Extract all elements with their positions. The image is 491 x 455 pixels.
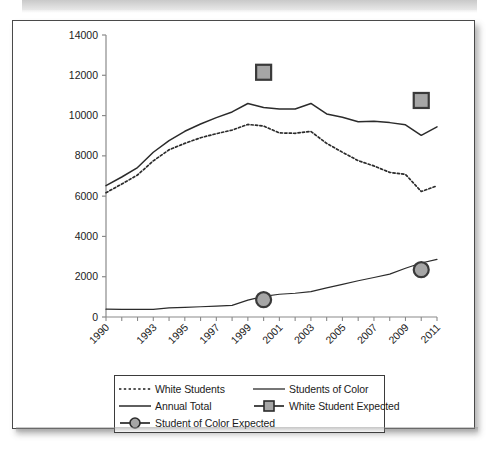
y-tick-label: 12000 (69, 69, 98, 81)
y-tick-label: 0 (92, 311, 98, 323)
legend-row: Annual Total White Student Expected (115, 398, 384, 414)
y-tick-label: 14000 (69, 29, 98, 41)
marker-white-student-expected (414, 93, 429, 108)
marker-white-student-expected (256, 65, 271, 80)
x-tick-label: 1993 (134, 321, 159, 346)
legend-item-students-of-color: Students of Color (249, 382, 383, 396)
scan-artifact-band-edge (22, 10, 477, 13)
y-tick-label: 8000 (75, 149, 99, 161)
y-tick-label: 4000 (75, 230, 99, 242)
chart-area: 0200040006000800010000120001400019901993… (13, 21, 474, 428)
figure-card: 0200040006000800010000120001400019901993… (12, 20, 475, 429)
x-tick-label: 2001 (260, 321, 285, 346)
legend-item-white-students: White Students (115, 382, 249, 396)
square-marker-line-icon (249, 399, 289, 413)
scan-artifact-band (22, 0, 477, 10)
legend-row: White Students Students of Color (115, 381, 384, 397)
x-tick-label: 2011 (418, 321, 443, 346)
series-line-white-students (106, 124, 437, 192)
y-tick-label: 10000 (69, 109, 98, 121)
marker-student-of-color-expected (256, 292, 271, 307)
x-tick-label: 1995 (165, 321, 190, 346)
series-line-annual-total (106, 103, 437, 185)
legend-label: Annual Total (155, 400, 211, 412)
legend-item-annual-total: Annual Total (115, 399, 249, 413)
legend-label: White Student Expected (289, 400, 399, 412)
solid-line-icon (115, 399, 155, 413)
chart-page: 0200040006000800010000120001400019901993… (0, 0, 491, 455)
legend-label: Students of Color (289, 383, 368, 395)
x-tick-label: 1999 (228, 321, 253, 346)
marker-student-of-color-expected (414, 262, 429, 277)
x-tick-label: 2005 (323, 321, 348, 346)
legend-item-white-student-expected: White Student Expected (249, 399, 383, 413)
chart-legend: White Students Students of Color (114, 375, 385, 433)
y-tick-label: 2000 (75, 270, 99, 282)
y-tick-label: 6000 (75, 190, 99, 202)
x-tick-label: 1997 (197, 321, 222, 346)
line-chart-svg: 0200040006000800010000120001400019901993… (13, 21, 474, 428)
x-tick-label: 2007 (354, 321, 379, 346)
card-shadow (16, 427, 478, 433)
dotted-line-icon (115, 382, 155, 396)
x-tick-label: 2003 (291, 321, 316, 346)
solid-line-icon (249, 382, 289, 396)
x-tick-label: 2009 (386, 321, 411, 346)
x-tick-label: 1990 (86, 321, 111, 346)
legend-label: White Students (155, 383, 225, 395)
